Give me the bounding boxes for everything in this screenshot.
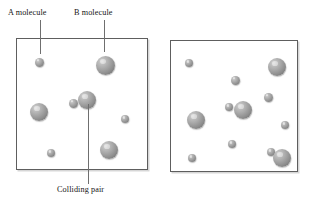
molecule-b [187, 111, 205, 129]
molecule-a [69, 99, 78, 108]
molecule-b [234, 101, 252, 119]
label-a-molecule: A molecule [8, 9, 47, 17]
label-colliding-pair: Colliding pair [57, 186, 104, 194]
molecule-a [225, 103, 233, 111]
label-b-molecule: B molecule [74, 9, 113, 17]
molecule-b [268, 58, 286, 76]
molecule-b [273, 149, 291, 167]
leader-line-a-molecule [40, 20, 41, 54]
molecule-a [47, 149, 55, 157]
molecule-a [188, 154, 196, 162]
molecule-b [96, 56, 115, 75]
molecule-b [30, 103, 48, 121]
diagram-canvas: A moleculeB moleculeColliding pair [0, 0, 313, 205]
molecule-a [231, 76, 240, 85]
molecule-a [228, 140, 236, 148]
molecule-a [121, 115, 129, 123]
molecule-b [100, 141, 118, 159]
leader-line-colliding-pair [88, 104, 89, 184]
molecule-a [264, 93, 273, 102]
leader-line-b-molecule [104, 20, 105, 52]
molecule-a [281, 121, 289, 129]
molecule-a [35, 58, 44, 67]
molecule-b [78, 91, 96, 109]
molecule-a [185, 59, 193, 67]
